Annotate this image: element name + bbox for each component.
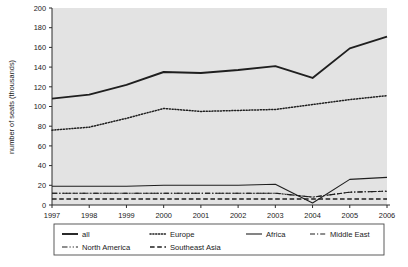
- legend-label-africa: Africa: [266, 230, 286, 239]
- plot-area-background: [52, 8, 387, 205]
- x-tick-label: 1998: [81, 211, 97, 220]
- x-tick-label: 2001: [193, 211, 209, 220]
- y-tick-label: 80: [38, 122, 46, 131]
- chart-container: 020406080100120140160180200 199719981999…: [0, 0, 408, 267]
- y-tick-label: 120: [34, 83, 46, 92]
- legend-label-all: all: [82, 230, 90, 239]
- legend-label-southeast-asia: Southeast Asia: [170, 243, 221, 252]
- y-tick-label: 20: [38, 181, 46, 190]
- x-tick-label: 2003: [267, 211, 283, 220]
- line-chart: 020406080100120140160180200 199719981999…: [0, 0, 408, 267]
- x-tick-label: 2000: [155, 211, 171, 220]
- x-tick-label: 2002: [230, 211, 246, 220]
- y-tick-label: 40: [38, 161, 46, 170]
- y-tick-label: 0: [42, 201, 46, 210]
- y-tick-label: 200: [34, 4, 46, 13]
- y-tick-label: 160: [34, 43, 46, 52]
- x-axis-ticks: 1997199819992000200120022003200420052006: [44, 205, 395, 220]
- y-tick-label: 60: [38, 142, 46, 151]
- y-tick-label: 180: [34, 23, 46, 32]
- y-axis-ticks: 020406080100120140160180200: [34, 4, 52, 210]
- y-tick-label: 140: [34, 63, 46, 72]
- x-tick-label: 2004: [304, 211, 320, 220]
- y-axis-label: number of seats (thousands): [7, 60, 16, 154]
- x-tick-label: 2006: [379, 211, 395, 220]
- y-tick-label: 100: [34, 102, 46, 111]
- legend-label-europe: Europe: [170, 230, 195, 239]
- x-tick-label: 1999: [118, 211, 134, 220]
- x-tick-label: 1997: [44, 211, 60, 220]
- legend-label-middle-east: Middle East: [330, 230, 371, 239]
- x-tick-label: 2005: [342, 211, 358, 220]
- legend-label-north-america: North America: [82, 243, 131, 252]
